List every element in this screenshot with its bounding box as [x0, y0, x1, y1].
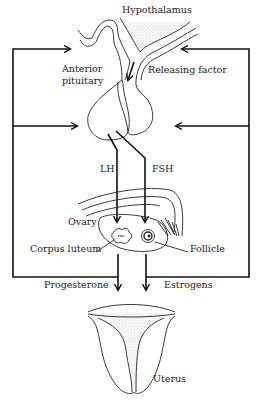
label-fsh: FSH: [152, 163, 173, 174]
label-pituitary: pituitary: [62, 75, 103, 86]
label-estrogens: Estrogens: [164, 279, 213, 290]
label-uterus: Uterus: [153, 373, 186, 384]
label-lh: LH: [100, 163, 115, 174]
pituitary-shape: [88, 80, 153, 140]
label-progesterone: Progesterone: [44, 279, 109, 290]
endocrine-diagram: Hypothalamus Anterior pituitary Releasin…: [0, 0, 259, 405]
label-releasing-factor: Releasing factor: [148, 64, 227, 75]
label-anterior: Anterior: [62, 63, 102, 74]
corpus-luteum-shape: [112, 228, 132, 243]
label-ovary: Ovary: [68, 216, 97, 227]
label-hypothalamus: Hypothalamus: [122, 4, 192, 15]
follicle-shape: [142, 230, 155, 243]
fsh-arrow: [116, 131, 145, 222]
label-corpus-luteum: Corpus luteum: [30, 243, 101, 254]
diagram-canvas: [0, 0, 259, 405]
follicle-leader: [155, 242, 188, 252]
label-follicle: Follicle: [190, 243, 225, 254]
